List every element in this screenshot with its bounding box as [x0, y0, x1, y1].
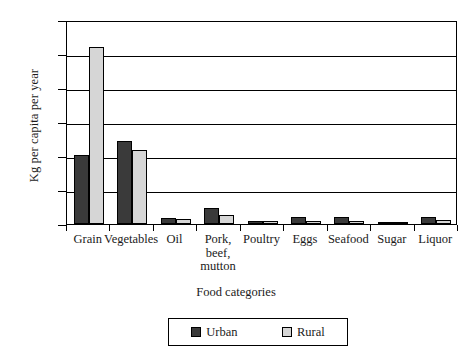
bar-urban-grain	[74, 155, 89, 224]
bar-urban-liquor	[421, 217, 436, 224]
x-axis-tick-mark	[370, 225, 371, 231]
legend-label-urban: Urban	[206, 326, 237, 338]
x-axis-tick-mark	[240, 225, 241, 231]
bar-rural-pork-beef-mutton	[219, 215, 234, 224]
bar-rural-sugar	[393, 222, 408, 224]
legend-swatch-rural-icon	[282, 327, 292, 337]
bar-rural-grain	[89, 47, 104, 224]
x-axis-tick-mark	[414, 225, 415, 231]
bar-rural-eggs	[306, 221, 321, 224]
x-axis-tick-mark	[66, 225, 67, 231]
bar-urban-oil	[161, 218, 176, 224]
gridline	[67, 90, 456, 91]
gridline	[67, 56, 456, 57]
y-axis-tick-mark	[58, 191, 66, 192]
bar-rural-vegetables	[132, 150, 147, 224]
bar-rural-liquor	[436, 220, 451, 224]
x-axis-tick-mark	[283, 225, 284, 231]
y-axis-tick-mark	[58, 157, 66, 158]
bar-rural-seafood	[349, 221, 364, 224]
bar-urban-sugar	[378, 222, 393, 224]
x-axis-tick-mark	[153, 225, 154, 231]
bar-rural-poultry	[263, 221, 278, 224]
legend-item-urban: Urban	[191, 326, 237, 338]
x-axis-title: Food categories	[0, 285, 472, 300]
bar-urban-pork-beef-mutton	[204, 208, 219, 224]
bar-urban-seafood	[334, 217, 349, 224]
y-axis-title: Kg per capita per year	[27, 26, 42, 226]
legend-label-rural: Rural	[297, 326, 325, 338]
x-axis-category-label: Liquor	[406, 233, 465, 247]
x-axis-tick-mark	[109, 225, 110, 231]
plot-area	[66, 21, 457, 225]
y-axis-tick-mark	[58, 225, 66, 226]
gridline	[67, 124, 456, 125]
legend-item-rural: Rural	[282, 326, 325, 338]
y-axis-tick-mark	[58, 123, 66, 124]
x-axis-tick-mark	[196, 225, 197, 231]
y-axis-tick-mark	[58, 89, 66, 90]
x-axis-tick-mark	[327, 225, 328, 231]
legend: Urban Rural	[168, 318, 348, 346]
legend-swatch-urban-icon	[191, 327, 201, 337]
x-axis-tick-mark	[457, 225, 458, 231]
y-axis-tick-mark	[58, 55, 66, 56]
bar-urban-eggs	[291, 217, 306, 224]
bar-urban-vegetables	[117, 141, 132, 224]
y-axis-tick-mark	[58, 21, 66, 22]
bar-rural-oil	[176, 219, 191, 224]
bar-urban-poultry	[248, 221, 263, 224]
bar-chart: Kg per capita per year 05010015020025030…	[0, 0, 472, 364]
